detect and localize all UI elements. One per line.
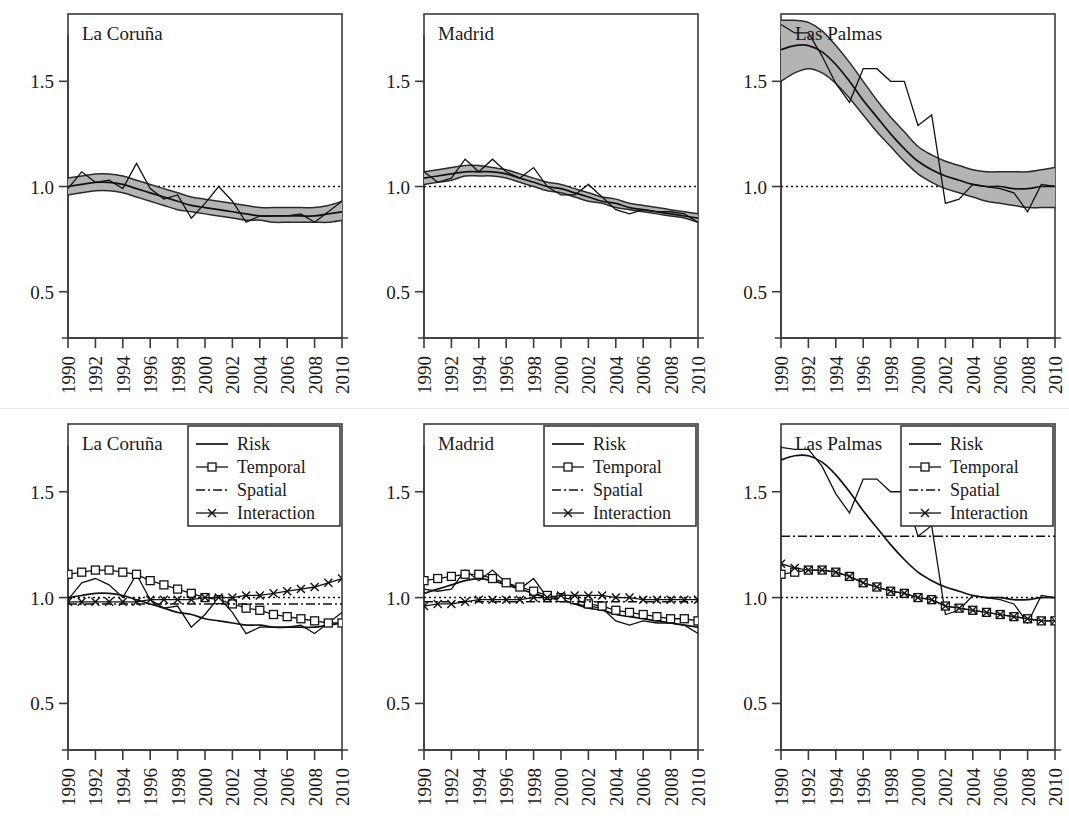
marker-square: [324, 619, 332, 627]
legend-label-temporal: Temporal: [593, 457, 662, 477]
marker-square: [242, 604, 250, 612]
x-tick-label: 2000: [195, 356, 216, 394]
legend-label-spatial: Spatial: [237, 480, 287, 500]
x-tick-label: 2002: [222, 768, 243, 806]
x-tick-label: 1996: [140, 356, 161, 394]
x-tick-label: 1996: [140, 768, 161, 806]
x-tick-label: 1994: [825, 356, 846, 395]
chart-panel-top-las-palmas: 0.51.01.51990199219941996199820002002200…: [713, 0, 1069, 410]
x-tick-label: 2000: [195, 768, 216, 806]
x-tick-label: 2004: [250, 356, 271, 395]
plot-area: [64, 566, 346, 634]
x-tick-label: 1998: [168, 768, 189, 806]
marker-square: [626, 608, 634, 616]
x-tick-label: 2010: [332, 356, 353, 394]
y-tick-label: 1.5: [387, 71, 411, 92]
marker-square: [174, 585, 182, 593]
x-tick-label: 2000: [551, 768, 572, 806]
x-tick-label: 2004: [962, 356, 983, 395]
x-tick-label: 2002: [579, 356, 600, 394]
x-tick-label: 2010: [1045, 356, 1066, 394]
x-tick-label: 2008: [305, 768, 326, 806]
legend-label-risk: Risk: [950, 434, 983, 454]
x-tick-label: 2006: [990, 356, 1011, 394]
y-tick-label: 1.0: [30, 177, 54, 198]
x-tick-label: 2002: [579, 768, 600, 806]
chart-panel-bottom-madrid: 0.51.01.51990199219941996199820002002200…: [356, 410, 712, 830]
marker-square: [78, 568, 86, 576]
x-tick-label: 1998: [880, 768, 901, 806]
x-tick-label: 2000: [551, 356, 572, 394]
x-tick-label: 1992: [798, 356, 819, 394]
legend-label-risk: Risk: [237, 434, 270, 454]
x-tick-label: 1992: [798, 768, 819, 806]
x-tick-label: 2002: [935, 356, 956, 394]
x-tick-label: 2006: [277, 356, 298, 394]
legend-label-temporal: Temporal: [237, 457, 306, 477]
x-tick-label: 1992: [85, 356, 106, 394]
plot-area: [68, 163, 342, 222]
x-tick-label: 2008: [661, 356, 682, 394]
legend-marker-square: [564, 463, 572, 471]
legend: RiskTemporalSpatialInteraction: [544, 426, 696, 526]
chart-panel-top-la-coruna: 0.51.01.51990199219941996199820002002200…: [0, 0, 356, 410]
x-tick-label: 1990: [414, 768, 435, 806]
x-tick-label: 2006: [277, 768, 298, 806]
y-tick-label: 1.0: [30, 588, 54, 609]
marker-square: [119, 568, 127, 576]
legend-label-risk: Risk: [593, 434, 626, 454]
series-temporal: [64, 566, 346, 627]
y-tick-label: 0.5: [30, 693, 54, 714]
x-tick-label: 1990: [771, 356, 792, 394]
x-tick-label: 1994: [825, 768, 846, 807]
y-tick-label: 1.0: [387, 588, 411, 609]
x-tick-label: 1996: [853, 768, 874, 806]
chart-panel-top-madrid: 0.51.01.51990199219941996199820002002200…: [356, 0, 712, 410]
legend: RiskTemporalSpatialInteraction: [188, 426, 340, 526]
chart-panel-bottom-las-palmas: 0.51.01.51990199219941996199820002002200…: [713, 410, 1069, 830]
y-tick-label: 0.5: [743, 282, 767, 303]
figure-canvas: 0.51.01.51990199219941996199820002002200…: [0, 0, 1069, 830]
marker-square: [653, 613, 661, 621]
x-tick-label: 1996: [497, 356, 518, 394]
x-tick-label: 2010: [688, 356, 709, 394]
x-tick-label: 1996: [853, 356, 874, 394]
x-tick-label: 2000: [908, 356, 929, 394]
legend-label-spatial: Spatial: [593, 480, 643, 500]
x-tick-label: 1992: [442, 356, 463, 394]
x-tick-label: 1992: [442, 768, 463, 806]
y-tick-label: 1.5: [387, 482, 411, 503]
x-tick-label: 2006: [634, 356, 655, 394]
x-tick-label: 2010: [688, 768, 709, 806]
x-tick-label: 1994: [113, 768, 134, 807]
marker-square: [420, 577, 428, 585]
panel-title: Las Palmas: [795, 433, 882, 454]
marker-square: [777, 570, 785, 578]
x-tick-label: 1998: [168, 356, 189, 394]
y-tick-label: 1.0: [743, 177, 767, 198]
y-tick-label: 0.5: [30, 282, 54, 303]
panel-title: La Coruña: [82, 23, 163, 44]
marker-square: [694, 617, 702, 625]
marker-square: [64, 570, 72, 578]
panel-title: Madrid: [438, 433, 494, 454]
marker-square: [91, 566, 99, 574]
y-tick-label: 0.5: [387, 693, 411, 714]
marker-square: [283, 613, 291, 621]
marker-square: [503, 579, 511, 587]
legend-label-interaction: Interaction: [237, 503, 315, 523]
plot-area: [420, 570, 702, 634]
legend: RiskTemporalSpatialInteraction: [901, 426, 1053, 526]
marker-square: [640, 611, 648, 619]
band-lower-edge: [424, 176, 698, 223]
marker-square: [297, 615, 305, 623]
marker-square: [667, 615, 675, 623]
marker-square: [256, 606, 264, 614]
x-tick-label: 1994: [469, 356, 490, 395]
x-tick-label: 2008: [305, 356, 326, 394]
x-tick-label: 2010: [332, 768, 353, 806]
y-tick-label: 1.5: [743, 71, 767, 92]
legend-label-temporal: Temporal: [950, 457, 1019, 477]
panel-title: Madrid: [438, 23, 494, 44]
marker-square: [461, 570, 469, 578]
